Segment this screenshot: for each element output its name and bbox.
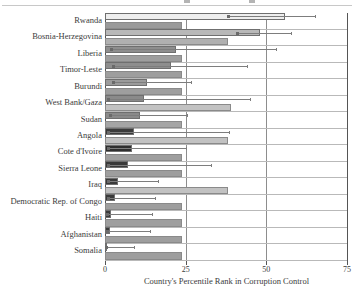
error-bar-node (109, 114, 112, 117)
error-bar (228, 16, 315, 17)
bar-comparison-average (105, 104, 231, 111)
row-separator (105, 260, 347, 261)
error-bar-cap (291, 32, 292, 35)
error-bar-node (105, 246, 108, 249)
error-bar-node (112, 65, 115, 68)
category-label: Sierra Leone (58, 164, 102, 173)
bar-comparison-average (105, 137, 228, 144)
error-bar (108, 99, 250, 100)
x-tick-label: 25 (182, 265, 190, 274)
bar-comparison-average (105, 88, 182, 95)
row-separator (105, 128, 347, 129)
error-bar-cap (134, 246, 135, 249)
error-bar-cap (247, 65, 248, 68)
bar-comparison-average (105, 187, 228, 194)
x-tick-label: 50 (262, 265, 270, 274)
error-bar-cap (150, 230, 151, 233)
category-label: Haiti (85, 213, 102, 222)
error-bar-cap (152, 213, 153, 216)
error-bar (107, 214, 152, 215)
bar-comparison-average (105, 236, 182, 243)
category-label: Cote d'Ivoire (58, 147, 102, 156)
error-bar-node (107, 180, 110, 183)
x-tick-label: 75 (343, 265, 351, 274)
error-bar-node (107, 98, 110, 101)
row-separator (105, 111, 347, 112)
error-bar (108, 132, 229, 133)
error-bar-cap (250, 98, 251, 101)
error-bar-node (227, 15, 230, 18)
bar-comparison-average (105, 219, 182, 226)
x-axis-title: Country's Percentile Rank in Corruption … (105, 276, 348, 286)
error-bar-node (110, 48, 113, 51)
category-label: Afghanistan (60, 230, 102, 239)
bar-comparison-average (105, 154, 182, 161)
error-bar-node (107, 147, 110, 150)
bar-comparison-average (105, 71, 182, 78)
error-bar-cap (155, 197, 156, 200)
category-label: Iraq (88, 180, 102, 189)
error-bar-cap (191, 81, 192, 84)
category-label: Democratic Rep. of Congo (10, 197, 102, 206)
category-label: Burundi (74, 82, 102, 91)
error-bar (110, 115, 187, 116)
error-bar (108, 148, 185, 149)
row-separator (105, 177, 347, 178)
bar-comparison-average (105, 22, 182, 29)
bar-comparison-average (105, 38, 228, 45)
error-bar-node (107, 197, 110, 200)
category-label: Sudan (81, 115, 102, 124)
error-bar-node (112, 81, 115, 84)
error-bar-cap (276, 48, 277, 51)
error-bar-cap (315, 15, 316, 18)
bar-comparison-average (105, 203, 182, 210)
error-bar-cap (186, 147, 187, 150)
error-bar-node (106, 213, 109, 216)
x-tick-label: 0 (103, 265, 107, 274)
category-label: Angola (77, 131, 102, 140)
row-separator (105, 243, 347, 244)
error-bar (108, 198, 155, 199)
error-bar (108, 165, 211, 166)
category-label: Rwanda (74, 16, 102, 25)
bar-comparison-average (105, 121, 182, 128)
category-label: Liberia (77, 49, 102, 58)
error-bar (111, 49, 276, 50)
error-bar (106, 247, 134, 248)
error-bar-cap (211, 164, 212, 167)
error-bar (113, 82, 190, 83)
error-bar-cap (158, 180, 159, 183)
category-label: Timor-Leste (60, 65, 102, 74)
error-bar-cap (229, 131, 230, 134)
bar-comparison-average (105, 170, 182, 177)
error-bar (108, 181, 159, 182)
error-bar-node (106, 230, 109, 233)
row-separator (105, 194, 347, 195)
corruption-control-chart: RwandaBosnia-HerzegovinaLiberiaTimor-Les… (0, 0, 354, 290)
category-label: Somalia (74, 246, 102, 255)
error-bar (237, 33, 290, 34)
row-separator (105, 210, 347, 211)
category-label: West Bank/Gaza (45, 98, 102, 107)
error-bar (113, 66, 247, 67)
error-bar (107, 231, 151, 232)
row-separator (105, 161, 347, 162)
row-separator (105, 144, 347, 145)
bar-comparison-average (105, 252, 182, 259)
row-separator (105, 227, 347, 228)
bar-comparison-average (105, 55, 182, 62)
error-bar-node (107, 131, 110, 134)
error-bar-node (236, 32, 239, 35)
error-bar-node (107, 164, 110, 167)
error-bar-cap (187, 114, 188, 117)
category-label: Bosnia-Herzegovina (32, 32, 102, 41)
